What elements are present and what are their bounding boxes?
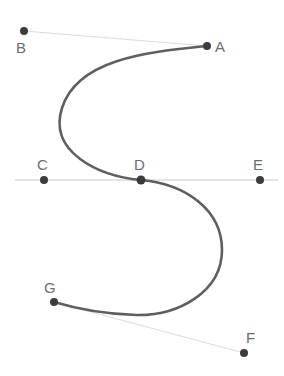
point-marker-E[interactable] <box>256 176 264 184</box>
point-marker-G[interactable] <box>50 298 58 306</box>
point-label-C: C <box>37 156 48 173</box>
point-label-E: E <box>253 156 263 173</box>
point-marker-F[interactable] <box>240 349 248 357</box>
point-marker-C[interactable] <box>40 176 48 184</box>
point-marker-D[interactable] <box>137 176 146 185</box>
point-label-F: F <box>246 329 255 346</box>
diagram-canvas: A B C D E F G <box>0 0 284 376</box>
point-marker-B[interactable] <box>20 27 28 35</box>
connector-line-b-a <box>24 31 207 46</box>
point-label-B: B <box>16 39 26 56</box>
point-marker-A[interactable] <box>203 42 211 50</box>
point-label-D: D <box>134 156 145 173</box>
curve-diagram: A B C D E F G <box>0 0 284 376</box>
point-label-A: A <box>215 38 225 55</box>
point-label-G: G <box>44 279 56 296</box>
